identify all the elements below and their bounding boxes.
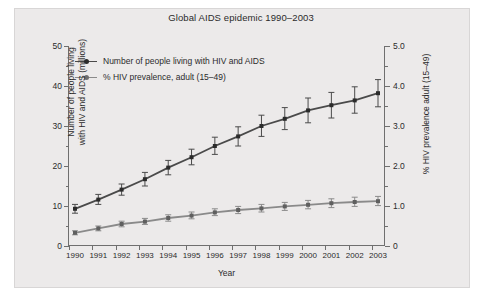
data-point-marker (376, 91, 380, 95)
data-point-marker (166, 216, 170, 220)
x-axis-tick (209, 246, 210, 250)
legend-label: % HIV prevalence, adult (15–49) (103, 72, 226, 82)
data-point-marker (96, 198, 100, 202)
x-axis-tick-label: 1996 (206, 251, 224, 260)
x-axis-tick (325, 246, 326, 250)
x-axis-tick-label: 2003 (369, 251, 387, 260)
data-point-marker (376, 199, 380, 203)
x-axis-tick (349, 246, 350, 250)
y-axis-right-tick-label: 1.0 (393, 201, 405, 211)
data-point-marker (96, 226, 100, 230)
data-point-marker (190, 214, 194, 218)
data-point-marker (120, 188, 124, 192)
y-axis-left-tick-label: 30 (53, 121, 62, 131)
y-axis-left-title-line2: with HIV and AIDS (millions) (77, 0, 88, 192)
data-point-marker (120, 222, 124, 226)
x-axis-tick (116, 246, 117, 250)
y-axis-left-tick-label: 10 (53, 201, 62, 211)
x-axis-tick (162, 246, 163, 250)
data-point-marker (73, 231, 77, 235)
data-point-marker (166, 166, 170, 170)
y-axis-right-tick (385, 166, 390, 167)
x-axis-tick-label: 2002 (346, 251, 364, 260)
y-axis-left-tick-label: 50 (53, 41, 62, 51)
x-axis-tick (92, 246, 93, 250)
y-axis-right-tick-label: 3.0 (393, 121, 405, 131)
legend-label: Number of people living with HIV and AID… (103, 56, 265, 66)
data-point-marker (213, 144, 217, 148)
y-axis-right-tick (385, 206, 390, 207)
y-axis-right-minor-tick (385, 186, 388, 187)
data-point-marker (190, 155, 194, 159)
y-axis-right-tick-label: 2.0 (393, 161, 405, 171)
y-axis-right-minor-tick (385, 66, 388, 67)
data-point-marker (259, 124, 263, 128)
y-axis-left-tick-label: 40 (53, 81, 62, 91)
y-axis-right-tick-label: 0 (393, 241, 398, 251)
x-axis-tick-label: 1998 (253, 251, 271, 260)
y-axis-left-title: Number of people living with HIV and AID… (66, 0, 88, 192)
x-axis-tick-label: 1995 (183, 251, 201, 260)
x-axis-tick (139, 246, 140, 250)
x-axis-title: Year (69, 268, 384, 278)
y-axis-left-title-line1: Number of people living (66, 0, 77, 192)
y-axis-right-tick (385, 46, 390, 47)
series (72, 80, 381, 214)
x-axis-tick-label: 1999 (276, 251, 294, 260)
x-axis-tick-label: 1997 (229, 251, 247, 260)
series (72, 196, 381, 234)
data-point-marker (73, 207, 77, 211)
data-point-marker (259, 206, 263, 210)
data-point-marker (236, 208, 240, 212)
x-axis-tick-label: 1992 (113, 251, 131, 260)
y-axis-right-title: % HIV prevalence adult (15–49) (421, 14, 431, 214)
plot-area: 01020304050 01.02.03.04.05.0 19901991199… (69, 46, 384, 245)
x-axis-tick (302, 246, 303, 250)
legend-item: Number of people living with HIV and AID… (75, 54, 265, 68)
chart-legend: Number of people living with HIV and AID… (75, 54, 265, 86)
data-point-marker (329, 103, 333, 107)
data-point-marker (143, 177, 147, 181)
data-point-marker (236, 134, 240, 138)
x-axis-tick (372, 246, 373, 250)
y-axis-left-tick-label: 0 (57, 241, 62, 251)
y-axis-right-tick-label: 5.0 (393, 41, 405, 51)
data-point-marker (353, 200, 357, 204)
figure: Global AIDS epidemic 1990–2003 010203040… (0, 0, 482, 300)
data-point-marker (353, 98, 357, 102)
y-axis-left-tick-label: 20 (53, 161, 62, 171)
y-axis-right-tick (385, 126, 390, 127)
data-point-marker (329, 201, 333, 205)
x-axis-tick (255, 246, 256, 250)
x-axis-tick-label: 1994 (159, 251, 177, 260)
x-axis-tick (232, 246, 233, 250)
y-axis-right-tick (385, 246, 390, 247)
y-axis-right-tick (385, 86, 390, 87)
y-axis-right-minor-tick (385, 226, 388, 227)
y-axis-right-tick-label: 4.0 (393, 81, 405, 91)
x-axis-tick-label: 1990 (66, 251, 84, 260)
series-line (75, 201, 378, 233)
data-point-marker (143, 220, 147, 224)
y-axis-right-minor-tick (385, 146, 388, 147)
x-axis-tick-label: 1991 (89, 251, 107, 260)
data-point-marker (306, 203, 310, 207)
x-axis-tick (186, 246, 187, 250)
x-axis-tick-label: 2001 (322, 251, 340, 260)
data-point-marker (306, 108, 310, 112)
x-axis-tick (69, 246, 70, 250)
x-axis-tick-label: 2000 (299, 251, 317, 260)
data-point-marker (213, 210, 217, 214)
y-axis-right-minor-tick (385, 106, 388, 107)
data-point-marker (283, 117, 287, 121)
x-axis-tick-label: 1993 (136, 251, 154, 260)
x-axis-tick (279, 246, 280, 250)
legend-item: % HIV prevalence, adult (15–49) (75, 70, 265, 84)
data-point-marker (283, 204, 287, 208)
